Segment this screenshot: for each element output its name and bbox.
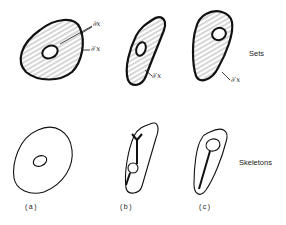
caption-a: (a) (25, 203, 38, 210)
boundary-label-prime-c: ∂′x (231, 77, 240, 84)
set-a (21, 20, 92, 80)
set-c (193, 11, 232, 80)
skeleton-c (194, 129, 227, 194)
diagram-canvas (0, 0, 286, 225)
skeleton-a (14, 127, 73, 193)
skeleton-b (125, 123, 158, 193)
row-label-sets: Sets (249, 50, 264, 58)
boundary-label-prime-b: ∂′x (152, 73, 161, 80)
caption-c: (c) (199, 203, 212, 210)
caption-b: (b) (120, 203, 133, 210)
boundary-label-prime-a: ∂′x (91, 46, 100, 53)
boundary-label-outer-a: ∂x (93, 21, 101, 28)
row-label-skeletons: Skeletons (239, 159, 272, 167)
